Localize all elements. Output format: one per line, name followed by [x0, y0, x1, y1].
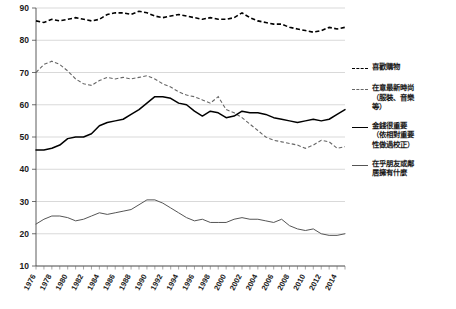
series-line-0 — [36, 11, 345, 32]
x-tick-label: 1992 — [149, 273, 165, 292]
x-tick-label: 1998 — [196, 273, 212, 292]
y-tick-label: 20 — [20, 229, 30, 239]
y-tick-label: 50 — [20, 132, 30, 142]
x-tick-label: 1986 — [101, 273, 117, 292]
x-tick-label: 2012 — [307, 273, 323, 292]
y-tick-label: 30 — [20, 197, 30, 207]
legend-item-3[interactable]: 在乎朋友或鄰 居擁有什麼 — [352, 159, 456, 178]
y-tick-label: 10 — [20, 261, 30, 271]
y-tick-label: 40 — [20, 164, 30, 174]
x-tick-label: 1994 — [164, 272, 180, 292]
legend-item-label: 喜歡購物 — [372, 62, 400, 72]
legend-swatch-dashed-light-icon — [352, 85, 368, 95]
legend-item-2[interactable]: 金錢很重要 （依相對重要 性做過校正） — [352, 121, 456, 150]
axis-lines — [32, 8, 345, 270]
x-tick-label: 1990 — [133, 273, 149, 292]
x-tick-label: 1984 — [85, 272, 101, 292]
x-tick-label: 2008 — [275, 273, 291, 292]
legend-item-label: 在意最新時尚 （服裝、音樂 等） — [372, 83, 414, 112]
x-tick-label: 2000 — [212, 273, 228, 292]
x-tick-label: 2002 — [228, 273, 244, 292]
legend-swatch-solid-thin-icon — [352, 161, 368, 171]
legend-item-label: 金錢很重要 （依相對重要 性做過校正） — [372, 121, 414, 150]
y-tick-label: 70 — [20, 68, 30, 78]
x-tick-label: 2006 — [260, 273, 276, 292]
x-tick-label: 1978 — [38, 273, 54, 292]
y-axis-ticklabels: 102030405060708090 — [20, 3, 30, 271]
series-line-3 — [36, 200, 345, 235]
x-tick-label: 1982 — [69, 273, 85, 292]
chart-container: 102030405060708090 197619781980198219841… — [0, 0, 456, 309]
x-tick-label: 2004 — [244, 272, 260, 292]
x-tick-label: 2010 — [291, 273, 307, 292]
y-tick-label: 90 — [20, 3, 30, 13]
legend-item-0[interactable]: 喜歡購物 — [352, 62, 456, 74]
legend-swatch-dashed-heavy-icon — [352, 64, 368, 74]
x-tick-label: 1976 — [22, 273, 38, 292]
legend-item-label: 在乎朋友或鄰 居擁有什麼 — [372, 159, 414, 178]
chart-legend: 喜歡購物在意最新時尚 （服裝、音樂 等）金錢很重要 （依相對重要 性做過校正）在… — [352, 62, 456, 187]
x-tick-label: 1996 — [180, 273, 196, 292]
y-tick-label: 60 — [20, 100, 30, 110]
legend-item-1[interactable]: 在意最新時尚 （服裝、音樂 等） — [352, 83, 456, 112]
x-axis-ticklabels: 1976197819801982198419861988199019921994… — [22, 272, 339, 292]
legend-swatch-solid-icon — [352, 123, 368, 133]
y-tick-label: 80 — [20, 35, 30, 45]
x-tick-label: 1980 — [54, 273, 70, 292]
x-tick-label: 2014 — [323, 272, 339, 292]
x-tick-label: 1988 — [117, 273, 133, 292]
